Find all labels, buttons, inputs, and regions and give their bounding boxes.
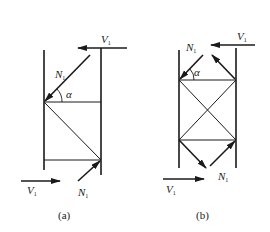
alpha-arc-a <box>57 89 62 102</box>
figure-b <box>163 45 255 179</box>
n1-top-label-b: N1 <box>185 41 196 54</box>
caption-b: (b) <box>196 209 209 222</box>
n1-up-arrow-b <box>210 141 235 166</box>
v1-top-label-a: V1 <box>101 33 111 46</box>
alpha-label-a: α <box>66 88 72 100</box>
caption-a: (a) <box>58 209 71 222</box>
figure-a <box>21 48 127 181</box>
n1-bottom-label-b: N1 <box>217 170 228 183</box>
n1-reflected-arrow-b <box>212 55 235 79</box>
wave-reflection-diagram: V1 N1 α V1 N1 (a) V1 N1 α V1 N1 (b) <box>0 0 270 232</box>
diagonal-a <box>44 102 101 160</box>
v1-bottom-label-b: V1 <box>166 183 176 196</box>
n1-down-arrow-b <box>179 140 206 168</box>
n1-bottom-arrow-a <box>78 161 100 181</box>
n1-top-label-a: N1 <box>54 68 65 81</box>
n1-bottom-label-a: N1 <box>77 186 88 199</box>
v1-bottom-label-a: V1 <box>27 184 37 197</box>
alpha-label-b: α <box>194 66 200 78</box>
v1-top-label-b: V1 <box>237 30 247 43</box>
diagram-canvas: V1 N1 α V1 N1 (a) V1 N1 α V1 N1 (b) <box>0 0 270 232</box>
labels-b: V1 N1 α V1 N1 (b) <box>166 30 247 222</box>
